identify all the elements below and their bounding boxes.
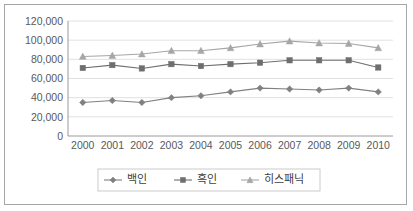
gridlines <box>68 21 393 117</box>
x-axis-tick-label: 2003 <box>160 139 184 151</box>
legend-item-label: 흑인 <box>197 172 217 185</box>
data-point-marker-diamond <box>345 85 351 91</box>
series-triangle <box>79 38 381 60</box>
x-axis-tick-labels: 2000200120022003200420052006200720082009… <box>71 139 390 151</box>
legend-item-triangle[interactable]: 히스패닉 <box>241 172 304 185</box>
data-point-marker-square <box>346 58 351 63</box>
y-axis-tick-label: 20,000 <box>31 111 63 123</box>
data-point-marker-square <box>80 65 85 70</box>
data-point-marker-diamond <box>286 86 292 92</box>
data-point-marker-square <box>169 61 174 66</box>
data-point-marker-square <box>376 65 381 70</box>
data-point-marker-diamond <box>109 97 115 103</box>
data-point-marker-diamond <box>80 99 86 105</box>
data-point-marker-diamond <box>168 94 174 100</box>
data-point-marker-square <box>287 58 292 63</box>
x-axis-tick-label: 2000 <box>71 139 95 151</box>
x-axis-tick-label: 2001 <box>101 139 125 151</box>
chart-container: 020,00040,00060,00080,000100,000120,000 … <box>5 5 408 206</box>
data-point-marker-diamond <box>316 87 322 93</box>
x-axis-tick-label: 2010 <box>367 139 391 151</box>
legend-item-diamond[interactable]: 백인 <box>104 173 147 185</box>
x-axis-tick-label: 2008 <box>307 139 331 151</box>
y-axis-tick-label: 120,000 <box>25 15 63 27</box>
chart-border-frame: 020,00040,00060,00080,000100,000120,000 … <box>4 4 407 205</box>
data-point-marker-diamond <box>227 89 233 95</box>
x-axis-tick-label: 2007 <box>278 139 302 151</box>
x-axis-tick-label: 2005 <box>219 139 243 151</box>
data-point-marker-diamond <box>257 85 263 91</box>
legend-item-square[interactable]: 흑인 <box>174 172 217 185</box>
x-axis-tick-label: 2006 <box>248 139 272 151</box>
legend-item-label: 히스패닉 <box>264 172 304 185</box>
data-point-marker-diamond <box>375 89 381 95</box>
legend-item-label: 백인 <box>127 173 147 185</box>
data-point-marker-diamond <box>110 177 116 183</box>
data-point-marker-diamond <box>139 99 145 105</box>
x-axis-tick-label: 2004 <box>189 139 213 151</box>
chart-legend: 백인흑인히스패닉 <box>98 169 320 191</box>
data-point-marker-square <box>228 61 233 66</box>
y-axis-tick-label: 0 <box>57 130 63 142</box>
data-series <box>79 38 381 106</box>
data-point-marker-square <box>316 58 321 63</box>
data-point-marker-square <box>139 66 144 71</box>
line-chart: 020,00040,00060,00080,000100,000120,000 … <box>5 5 408 206</box>
data-point-marker-square <box>110 62 115 67</box>
y-axis-tick-labels: 020,00040,00060,00080,000100,000120,000 <box>25 15 63 142</box>
y-axis-tick-label: 40,000 <box>31 91 63 103</box>
data-point-marker-square <box>181 178 186 183</box>
series-diamond <box>80 85 382 106</box>
y-axis-tick-label: 60,000 <box>31 72 63 84</box>
data-point-marker-square <box>257 60 262 65</box>
y-axis-tick-label: 80,000 <box>31 53 63 65</box>
y-axis-tick-label: 100,000 <box>25 34 63 46</box>
x-axis-tick-label: 2002 <box>130 139 154 151</box>
x-axis-tick-label: 2009 <box>337 139 361 151</box>
data-point-marker-square <box>198 63 203 68</box>
